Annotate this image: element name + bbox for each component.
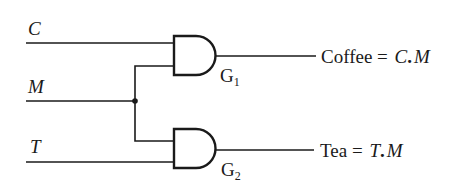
- junction-dot: [132, 98, 138, 104]
- gate-label-g1: G1: [220, 65, 240, 89]
- logic-circuit-diagram: C M T G1 G2 Coffee = C.M Tea = T.M: [0, 0, 460, 185]
- input-label-c: C: [28, 18, 41, 39]
- gate-label-g2: G2: [221, 159, 241, 183]
- output-label-tea: Tea = T.M: [320, 140, 404, 161]
- output-label-coffee: Coffee = C.M: [321, 46, 431, 67]
- input-label-m: M: [27, 76, 45, 97]
- input-label-t: T: [30, 136, 42, 157]
- and-gate-g2: [174, 129, 216, 168]
- and-gate-g1: [174, 36, 216, 75]
- wire-m-branch: [135, 66, 174, 141]
